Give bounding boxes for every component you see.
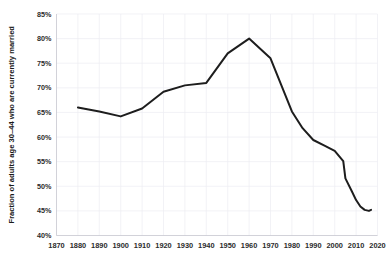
chart-container: 40%45%50%55%60%65%70%75%80%85% 187018801… [0,0,386,260]
data-series-group [78,39,371,211]
y-tick-label: 85% [37,10,52,19]
data-line [78,39,371,211]
x-tick-labels: 1870188018901900191019201930194019501960… [48,241,385,250]
x-tick-label: 1890 [91,241,107,250]
x-tick-label: 1960 [241,241,257,250]
x-tick-label: 1920 [155,241,171,250]
y-tick-label: 75% [37,59,52,68]
x-tick-label: 2020 [369,241,385,250]
line-chart: 40%45%50%55%60%65%70%75%80%85% 187018801… [0,0,386,260]
x-tick-label: 1980 [284,241,300,250]
x-tick-label: 1900 [112,241,128,250]
x-tick-label: 2010 [348,241,364,250]
y-tick-labels: 40%45%50%55%60%65%70%75%80%85% [37,10,52,241]
y-tick-label: 50% [37,182,52,191]
y-tick-label: 60% [37,133,52,142]
y-tick-label: 70% [37,83,52,92]
x-tick-label: 1990 [305,241,321,250]
x-tick-label: 1970 [262,241,278,250]
y-axis-title: Fraction of adults age 30–44 who are cur… [7,26,16,224]
axis-lines [57,14,378,236]
x-tick-label: 1880 [70,241,86,250]
x-tick-label: 1940 [198,241,214,250]
y-tick-label: 65% [37,108,52,117]
y-tick-label: 45% [37,206,52,215]
x-tick-label: 1930 [177,241,193,250]
x-tick-label: 1950 [219,241,235,250]
y-gridlines [57,14,378,236]
x-tick-label: 1870 [48,241,64,250]
y-tick-label: 55% [37,157,52,166]
y-tick-label: 40% [37,231,52,240]
x-gridlines [57,14,378,236]
y-tick-label: 80% [37,34,52,43]
y-axis-title-text: Fraction of adults age 30–44 who are cur… [7,26,16,224]
x-tick-label: 2000 [326,241,342,250]
x-tick-label: 1910 [134,241,150,250]
